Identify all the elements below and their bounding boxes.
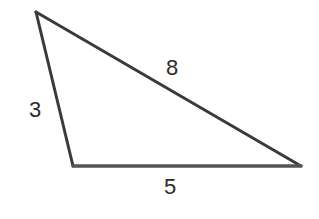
side-base-label: 5 [164,176,176,198]
side-hypotenuse [36,12,301,166]
side-left-label: 3 [29,99,41,121]
side-hypotenuse-label: 8 [166,57,178,79]
side-left [36,12,73,166]
triangle-diagram [0,0,319,219]
